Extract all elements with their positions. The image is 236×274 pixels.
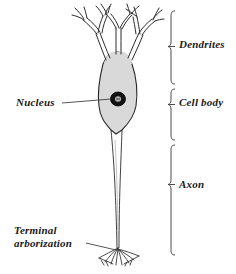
dendrite-trunk-left-b	[100, 33, 110, 58]
axon-right-edge	[119, 130, 122, 248]
terminal-arborization	[99, 248, 139, 266]
dendrite-branch-r2b	[133, 17, 136, 34]
terminal-root-2	[105, 248, 118, 262]
bracket-cell-body	[168, 89, 175, 140]
label-terminal-line2: arborization	[14, 237, 72, 250]
label-cell-body: Cell body	[179, 96, 223, 109]
bracket-dendrites	[168, 11, 175, 84]
label-terminal-arborization: Terminal arborization	[14, 224, 72, 249]
dendrite-branch-m2	[120, 14, 130, 28]
dendrite-trunk-left	[96, 34, 106, 60]
bracket-axon	[168, 145, 175, 255]
dendrite-trunk-right	[128, 33, 139, 58]
label-axon: Axon	[179, 178, 204, 191]
dendrite-branch-m1	[106, 14, 116, 28]
terminal-tip-a	[101, 260, 104, 265]
dendrite-twig-m2a	[127, 4, 130, 14]
axon-left-edge	[111, 130, 117, 248]
label-dendrites: Dendrites	[179, 38, 225, 51]
dendrite-twig-l2a	[96, 6, 103, 16]
dendrite-trunk-right-b	[132, 35, 143, 60]
dendrite-branch-l1	[83, 20, 97, 34]
terminal-leader-line	[86, 243, 116, 250]
dendrite-twig-m1a	[101, 4, 107, 14]
label-nucleus: Nucleus	[16, 96, 55, 109]
nucleus-group	[111, 92, 126, 106]
dendrite-branch-r2	[137, 17, 140, 34]
axon-group	[111, 130, 122, 248]
label-terminal-line1: Terminal	[14, 224, 72, 237]
dendrite-branch-l2b	[102, 16, 107, 33]
dendrite-twig-l1c	[84, 7, 87, 18]
dendrite-twig-r1c	[155, 19, 164, 21]
neuron-diagram: Dendrites Cell body Axon Nucleus Termina…	[0, 0, 236, 274]
dendrite-branch-r1b	[142, 21, 155, 35]
brackets	[168, 11, 175, 255]
terminal-root-6	[118, 249, 129, 263]
dendrite-twig-r1b	[153, 8, 159, 20]
